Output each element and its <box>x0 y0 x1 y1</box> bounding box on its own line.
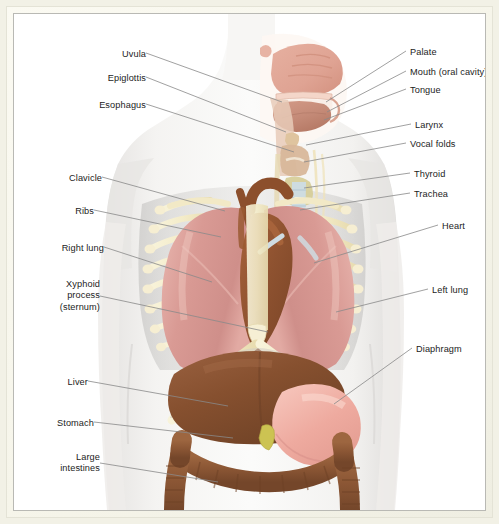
label-diaphragm: Diaphragm <box>416 344 462 355</box>
splenic-flexure <box>342 442 344 462</box>
label-vocal-folds: Vocal folds <box>410 139 456 150</box>
superior-vena-cava <box>241 210 242 246</box>
label-mouth-oral-cavity: Mouth (oral cavity) <box>410 67 485 78</box>
label-uvula: Uvula <box>110 49 146 60</box>
label-larynx: Larynx <box>415 120 443 131</box>
label-stomach: Stomach <box>43 418 94 429</box>
label-thyroid: Thyroid <box>414 169 445 180</box>
hepatic-flexure <box>180 440 182 458</box>
label-xyphoid-process-sternum: Xyphoid process (sternum) <box>40 279 100 313</box>
label-ribs: Ribs <box>64 206 94 217</box>
label-tongue: Tongue <box>410 85 441 96</box>
nose <box>260 45 272 57</box>
label-heart: Heart <box>442 221 465 232</box>
label-liver: Liver <box>60 377 88 388</box>
label-left-lung: Left lung <box>432 285 468 296</box>
nasal-cavity <box>271 44 343 97</box>
figure-plate: UvulaEpiglottisEsophagusClavicleRibsRigh… <box>14 14 485 510</box>
anatomy-figure-frame: UvulaEpiglottisEsophagusClavicleRibsRigh… <box>0 0 499 524</box>
label-large-intestines: Large intestines <box>48 452 100 475</box>
sternum <box>246 204 268 333</box>
label-palate: Palate <box>410 47 437 58</box>
label-epiglottis: Epiglottis <box>96 73 146 84</box>
label-trachea: Trachea <box>414 189 448 200</box>
label-right-lung: Right lung <box>38 243 104 254</box>
label-clavicle: Clavicle <box>50 173 102 184</box>
larynx <box>280 145 310 177</box>
label-esophagus: Esophagus <box>88 100 146 111</box>
